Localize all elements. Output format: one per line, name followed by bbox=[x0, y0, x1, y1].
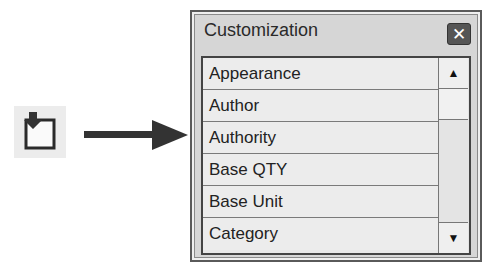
scrollbar-thumb[interactable] bbox=[439, 89, 468, 120]
list-item[interactable]: Category bbox=[203, 218, 439, 250]
customization-panel: Customization ✕ Appearance Author Author… bbox=[190, 10, 482, 262]
list-item[interactable]: Base Unit bbox=[203, 186, 439, 218]
right-arrow-icon bbox=[84, 118, 188, 152]
panel-title: Customization bbox=[204, 20, 318, 41]
scroll-up-icon[interactable]: ▲ bbox=[439, 58, 468, 89]
scrollbar[interactable]: ▲ ▼ bbox=[438, 58, 469, 253]
list-item[interactable]: Author bbox=[203, 90, 439, 122]
list-item[interactable]: Base QTY bbox=[203, 154, 439, 186]
customization-list: Appearance Author Authority Base QTY Bas… bbox=[201, 56, 471, 255]
customization-tool-icon[interactable] bbox=[14, 106, 66, 158]
close-button[interactable]: ✕ bbox=[447, 23, 471, 45]
clipboard-download-icon bbox=[14, 106, 66, 158]
list-item[interactable]: Appearance bbox=[203, 58, 439, 90]
scroll-down-icon[interactable]: ▼ bbox=[439, 222, 468, 253]
list-item[interactable]: Authority bbox=[203, 122, 439, 154]
